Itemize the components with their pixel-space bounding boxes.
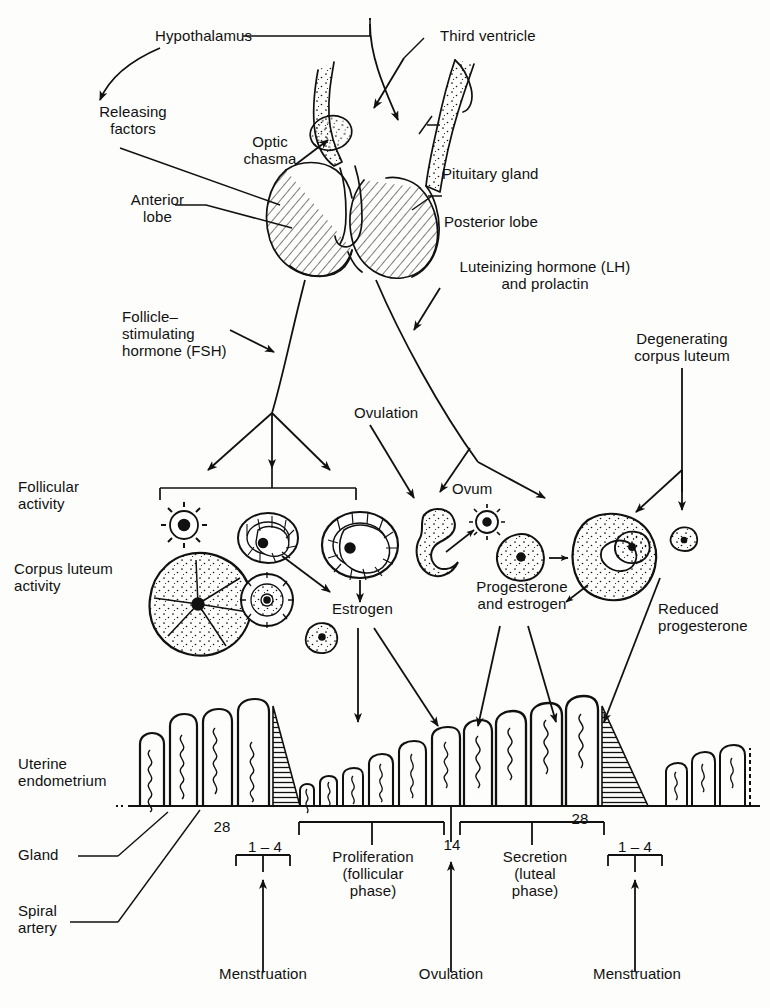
third-ventricle-arrow-b	[370, 24, 398, 120]
label-hypothalamus: Hypothalamus	[155, 27, 252, 44]
fsh-arrow-right	[272, 413, 330, 470]
early-corpus-luteum	[497, 534, 568, 580]
gland-leader-line	[118, 812, 168, 856]
label-corpus-luteum-activity: Corpus luteum activity	[14, 560, 113, 594]
gland-artery-leaders	[70, 810, 200, 922]
label-degenerating-corpus-luteum: Degenerating corpus luteum	[608, 330, 756, 364]
uterine-endometrium-illustration	[116, 696, 760, 813]
endometrium-phase-late-secretory-left	[140, 699, 300, 812]
endometrium-phase-new-cycle	[666, 745, 750, 806]
estrogen-to-endometrium-arrow-b	[374, 628, 438, 726]
large-corpus-luteum	[150, 553, 252, 656]
corpus-albicans	[671, 527, 698, 551]
label-releasing-factors: Releasing factors	[88, 103, 178, 137]
fsh-flow-line	[272, 280, 305, 413]
label-estrogen: Estrogen	[332, 600, 393, 617]
label-menstruation-left: Menstruation	[198, 965, 328, 982]
label-reduced-progesterone: Reduced progesterone	[658, 600, 748, 634]
label-proliferation-phase: Proliferation (follicular phase)	[298, 848, 448, 899]
corpus-albicans-small-a	[306, 623, 338, 653]
ovulation-label-arrow	[370, 425, 414, 498]
label-secretion-phase: Secretion (luteal phase)	[470, 848, 600, 899]
fsh-arrow-left	[208, 413, 272, 470]
label-posterior-lobe: Posterior lobe	[444, 213, 538, 230]
primordial-follicle	[161, 502, 207, 548]
label-ovulation-top: Ovulation	[354, 404, 418, 421]
endometrium-phase-secretory	[464, 696, 648, 806]
label-gland: Gland	[18, 846, 59, 863]
hormone-flow-arrows	[208, 280, 682, 512]
label-progesterone-and-estrogen: Progesterone and estrogen	[452, 578, 592, 612]
label-menstruation-right: Menstruation	[572, 965, 702, 982]
spiral-artery-leader-line	[118, 810, 200, 922]
label-ovulation-bottom: Ovulation	[396, 965, 506, 982]
label-third-ventricle: Third ventricle	[440, 27, 536, 44]
fsh-label-arrow	[230, 330, 274, 352]
regressing-corpus-luteum	[615, 532, 650, 563]
hypothalamus-leader	[243, 18, 370, 36]
progesterone-arrow-a	[478, 626, 500, 726]
label-uterine-endometrium: Uterine endometrium	[18, 755, 107, 789]
diagram-canvas: Hypothalamus Third ventricle Releasing f…	[0, 0, 770, 1008]
graafian-follicle	[322, 512, 398, 580]
day-marker-1-4-right: 1 – 4	[610, 838, 660, 855]
label-optic-chasma: Optic chasma	[235, 133, 305, 167]
hypothalamus-to-releasing-arrow	[100, 48, 160, 100]
lh-label-arrow	[414, 288, 440, 330]
ovum-released	[469, 504, 505, 540]
label-lh-prolactin: Luteinizing hormone (LH) and prolactin	[440, 258, 650, 292]
label-pituitary-gland: Pituitary gland	[442, 165, 539, 182]
day-marker-14: 14	[432, 836, 472, 853]
label-anterior-lobe: Anterior lobe	[120, 191, 195, 225]
label-fsh: Follicle– stimulating hormone (FSH)	[122, 308, 227, 359]
day-marker-1-4-left: 1 – 4	[240, 838, 290, 855]
label-spiral-artery: Spiral artery	[18, 902, 57, 936]
endometrium-phase-proliferative	[300, 727, 460, 813]
day-marker-28-left: 28	[202, 818, 242, 835]
label-follicular-activity: Follicular activity	[18, 478, 79, 512]
day-marker-28-right: 28	[560, 810, 600, 827]
primary-follicle	[238, 513, 298, 563]
degenerating-arrow-left	[636, 470, 682, 512]
ovarian-cycle-illustration	[150, 502, 698, 656]
ruptured-follicle	[417, 509, 474, 576]
label-ovum: Ovum	[452, 480, 492, 497]
third-ventricle-leader	[404, 38, 424, 58]
follicular-bracket	[160, 468, 356, 500]
progesterone-arrow-b	[528, 626, 556, 722]
